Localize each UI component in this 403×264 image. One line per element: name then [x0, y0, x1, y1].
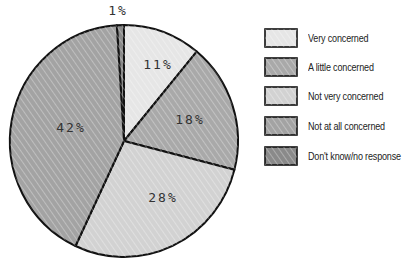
legend-item-very-concerned: Very concerned — [262, 28, 403, 50]
legend-label: Don't know/no response — [308, 150, 401, 162]
legend-item-not-very-concerned: Not very concerned — [262, 86, 403, 108]
legend-item-not-at-all-concerned: Not at all concerned — [262, 116, 403, 138]
slice-label-notatall: 42% — [56, 120, 85, 135]
legend-swatch — [264, 86, 298, 106]
slice-label-notvery: 28% — [148, 190, 177, 205]
legend-swatch — [264, 116, 298, 136]
slice-label-dk: 1% — [108, 3, 128, 18]
legend-swatch — [264, 57, 298, 77]
legend-swatch — [264, 146, 298, 166]
legend-label: Not at all concerned — [308, 120, 385, 132]
legend-swatch — [264, 28, 298, 48]
slice-label-little: 18% — [175, 112, 204, 127]
legend-item-dont-know: Don't know/no response — [262, 146, 403, 168]
legend-item-a-little-concerned: A little concerned — [262, 57, 403, 79]
legend-label: A little concerned — [308, 61, 374, 73]
slice-label-very: 11% — [143, 57, 172, 72]
legend-label: Very concerned — [308, 32, 368, 44]
legend-label: Not very concerned — [308, 90, 383, 102]
